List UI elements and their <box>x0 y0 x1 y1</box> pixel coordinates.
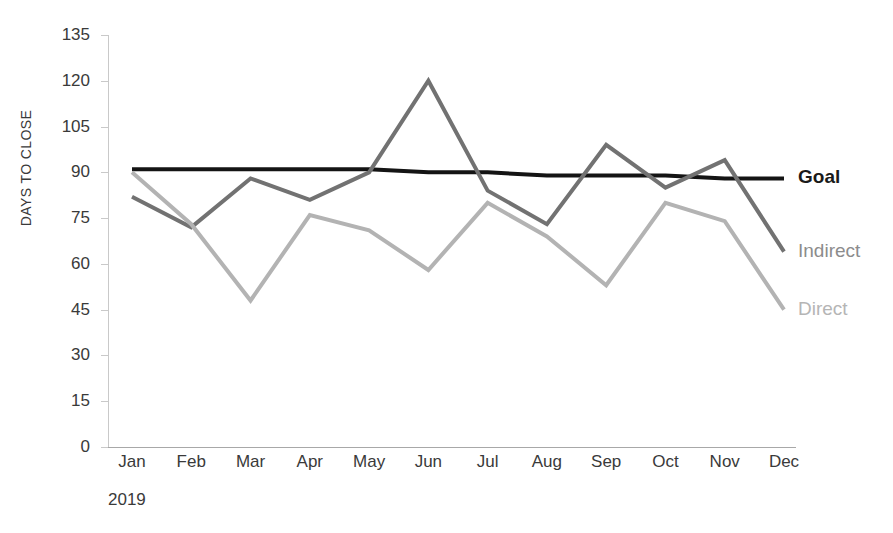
series-label-direct: Direct <box>798 298 848 320</box>
y-axis-tick <box>101 355 108 356</box>
x-axis-tick-label: Sep <box>591 452 621 472</box>
y-axis-title: DAYS TO CLOSE <box>18 78 34 258</box>
y-axis-tick <box>101 401 108 402</box>
series-label-indirect: Indirect <box>798 240 860 262</box>
x-axis-tick-label: Jul <box>477 452 499 472</box>
x-axis-tick-label: Jun <box>415 452 442 472</box>
x-axis-group-label: 2019 <box>108 490 146 510</box>
x-axis-tick-label: May <box>353 452 385 472</box>
y-axis-tick <box>101 310 108 311</box>
y-axis-tick-label: 30 <box>71 345 90 365</box>
y-axis-tick <box>101 35 108 36</box>
y-axis-tick <box>101 172 108 173</box>
y-axis-tick <box>101 264 108 265</box>
plot-area <box>108 35 796 447</box>
x-axis-tick-label: Mar <box>236 452 265 472</box>
y-axis-tick <box>101 127 108 128</box>
x-axis-tick-label: Dec <box>769 452 799 472</box>
y-axis-tick-labels: 0153045607590105120135 <box>34 0 90 533</box>
y-axis-tick-label: 135 <box>62 25 90 45</box>
x-axis-tick-label: Aug <box>532 452 562 472</box>
x-axis-tick-labels: JanFebMarAprMayJunJulAugSepOctNovDec <box>108 452 796 478</box>
x-axis-tick-label: Jan <box>118 452 145 472</box>
y-axis-tick <box>101 447 108 448</box>
x-axis-line <box>108 447 796 448</box>
y-axis-tick-label: 75 <box>71 208 90 228</box>
series-line-direct <box>132 172 784 309</box>
y-axis-tick <box>101 218 108 219</box>
x-axis-tick-label: Oct <box>652 452 678 472</box>
y-axis-tick-label: 45 <box>71 300 90 320</box>
y-axis-tick-label: 120 <box>62 71 90 91</box>
series-label-goal: Goal <box>798 166 840 188</box>
y-axis-tick-label: 15 <box>71 391 90 411</box>
x-axis-tick-label: Apr <box>297 452 323 472</box>
y-axis-tick-label: 60 <box>71 254 90 274</box>
chart-container: Time to close deal DAYS TO CLOSE 0153045… <box>0 0 893 533</box>
y-axis-tick-label: 0 <box>81 437 90 457</box>
series-line-indirect <box>132 81 784 252</box>
series-lines <box>108 35 796 447</box>
y-axis-tick <box>101 81 108 82</box>
x-axis-tick-label: Feb <box>177 452 206 472</box>
y-axis-tick-label: 105 <box>62 117 90 137</box>
x-axis-tick-label: Nov <box>710 452 740 472</box>
y-axis-tick-label: 90 <box>71 162 90 182</box>
